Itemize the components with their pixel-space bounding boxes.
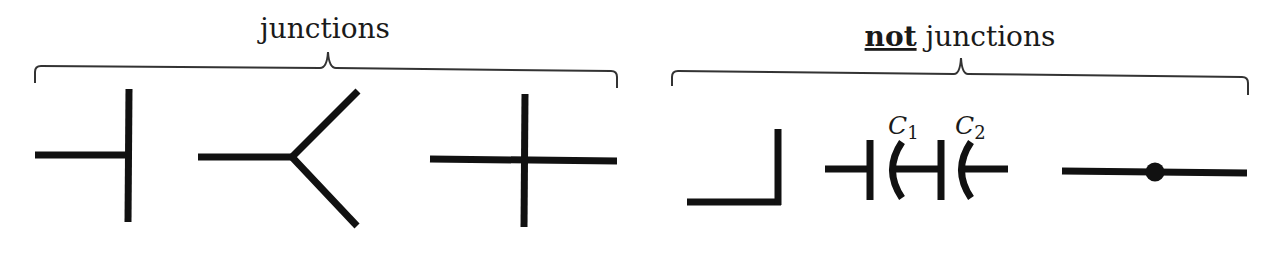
junctions-title: junctions [257, 12, 390, 45]
c2-label: C2 [955, 111, 986, 143]
dot-icon [1146, 163, 1165, 182]
c1-label: C1 [888, 111, 919, 143]
not-junctions-brace [672, 58, 1248, 95]
cross-junction-shape [430, 94, 617, 227]
junctions-group: junctions [35, 12, 617, 227]
corner-shape [687, 129, 781, 205]
junction-diagram: junctions not junctions [0, 0, 1283, 253]
not-emphasis: not [865, 20, 917, 53]
not-junctions-title: not junctions [865, 20, 1056, 53]
y-junction-shape [198, 91, 358, 226]
junctions-brace [35, 52, 617, 88]
not-junctions-rest: junctions [917, 20, 1056, 53]
not-junctions-group: not junctions C1 C2 [672, 20, 1248, 205]
t-junction-shape [35, 89, 130, 222]
wire-with-dot-shape [1062, 163, 1247, 182]
series-capacitors-shape: C1 C2 [825, 111, 1008, 200]
